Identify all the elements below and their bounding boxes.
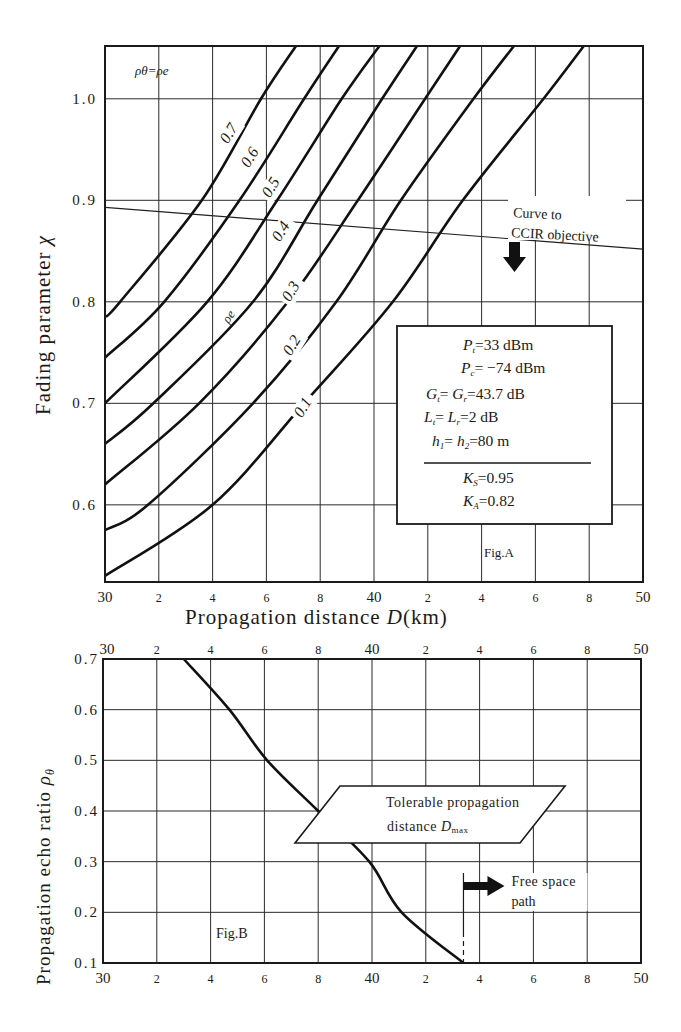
- curve-rho-0.4: [105, 46, 417, 444]
- fig-b-annotations: Tolerable propagationdistance DmaxFree s…: [216, 786, 587, 962]
- ccir-annotation-line1: Curve to: [513, 205, 562, 223]
- x-tick-label-bottom: 6: [261, 972, 267, 986]
- x-tick-label-bottom: 8: [584, 972, 590, 986]
- x-tick-label-top: 8: [584, 643, 590, 657]
- y-tick-label: 1.0: [72, 91, 97, 107]
- free-space-label-2: path: [511, 894, 535, 909]
- x-tick-label: 40: [367, 589, 382, 605]
- curve-rho-0.5: [105, 46, 379, 403]
- y-tick-label: 0.3: [74, 854, 99, 870]
- callout-line1: Tolerable propagation: [386, 795, 520, 810]
- parameter-row: Gt= Gr=43.7 dB: [426, 385, 525, 404]
- x-tick-label-top: 2: [154, 643, 160, 657]
- x-tick-label-top: 30: [100, 641, 115, 657]
- fig-a-x-axis-title: Propagation distance D(km): [185, 605, 448, 629]
- y-tick-label: 0.6: [72, 497, 97, 513]
- x-tick-label: 8: [317, 591, 323, 605]
- x-tick-label-bottom: 8: [315, 972, 321, 986]
- right-arrow-icon: [463, 876, 504, 896]
- x-tick-label-top: 4: [208, 643, 214, 657]
- x-tick-label-top: 6: [530, 643, 536, 657]
- y-tick-label: 0.4: [74, 803, 99, 819]
- figure-page: Curve toCCIR objective 0.70.60.50.40.30.…: [0, 0, 681, 1032]
- parameter-row: KS=0.95: [462, 469, 514, 488]
- y-tick-label: 0.5: [74, 752, 99, 768]
- x-tick-label-bottom: 40: [365, 970, 380, 986]
- x-tick-label: 6: [263, 591, 269, 605]
- legend-note: ρθ=ρe: [134, 63, 169, 78]
- y-tick-label: 0.7: [74, 651, 99, 667]
- x-tick-label: 8: [586, 591, 592, 605]
- x-tick-label: 6: [532, 591, 538, 605]
- y-tick-label: 0.9: [72, 192, 97, 208]
- y-tick-label: 0.6: [74, 702, 99, 718]
- x-tick-label-bottom: 4: [208, 972, 214, 986]
- x-tick-label-top: 2: [423, 643, 429, 657]
- chart-canvas: Curve toCCIR objective 0.70.60.50.40.30.…: [0, 0, 681, 1032]
- parameter-row: h1= h2=80 m: [432, 432, 509, 451]
- y-tick-label: 0.8: [72, 294, 97, 310]
- fig-a-caption: Fig.A: [484, 545, 515, 560]
- x-tick-label-bottom: 2: [423, 972, 429, 986]
- parameter-row: Lt= Lr=2 dB: [423, 408, 498, 427]
- free-space-label-1: Free space: [511, 874, 575, 889]
- fig-a-chart: Curve toCCIR objective 0.70.60.50.40.30.…: [72, 46, 650, 605]
- x-tick-label-top: 40: [365, 641, 380, 657]
- x-tick-label: 30: [98, 589, 113, 605]
- x-tick-label-top: 50: [634, 641, 649, 657]
- down-arrow-icon: [503, 242, 526, 272]
- x-tick-label-top: 6: [261, 643, 267, 657]
- ccir-annotation-line2: CCIR objective: [511, 225, 599, 245]
- x-tick-label: 2: [156, 591, 162, 605]
- fig-b-y-axis-title: Propagation echo ratio ρθ: [33, 768, 57, 985]
- x-tick-label-bottom: 6: [530, 972, 536, 986]
- fig-a-y-axis-title: Fading parameter χ: [31, 235, 55, 415]
- fig-b-chart: Tolerable propagationdistance DmaxFree s…: [74, 641, 648, 986]
- x-tick-label-bottom: 50: [634, 970, 649, 986]
- x-tick-label: 2: [425, 591, 431, 605]
- x-tick-label-top: 8: [315, 643, 321, 657]
- x-tick-label: 4: [210, 591, 216, 605]
- x-tick-label-bottom: 4: [477, 972, 483, 986]
- x-tick-label: 50: [636, 589, 651, 605]
- x-tick-label-bottom: 30: [96, 970, 111, 986]
- x-tick-label-top: 4: [477, 643, 483, 657]
- y-tick-label: 0.1: [74, 955, 99, 971]
- y-tick-label: 0.2: [74, 904, 99, 920]
- fig-a-parameter-box: Pt=33 dBmPc= −74 dBmGt= Gr=43.7 dBLt= Lr…: [397, 326, 612, 560]
- fig-b-caption: Fig.B: [216, 926, 248, 941]
- x-tick-label-bottom: 2: [154, 972, 160, 986]
- y-tick-label: 0.7: [72, 395, 97, 411]
- x-tick-label: 4: [479, 591, 485, 605]
- parameter-row: KA=0.82: [462, 492, 515, 511]
